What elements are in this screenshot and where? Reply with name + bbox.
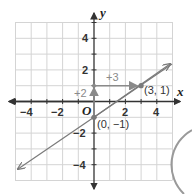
x-axis-label: x <box>176 84 184 99</box>
tick-label-x-2: 2 <box>122 106 128 118</box>
tick-label-y-neg2: −2 <box>73 127 86 139</box>
origin-label: O <box>82 103 92 118</box>
tick-label-x-neg2: −2 <box>51 106 64 118</box>
point-step-corner <box>92 84 96 88</box>
point-second-label: (3, 1) <box>144 84 170 96</box>
tick-label-x-4: 4 <box>153 106 160 118</box>
run-label: +3 <box>106 71 119 83</box>
tick-label-y-2: 2 <box>82 64 88 76</box>
decorative-arc <box>171 130 192 194</box>
point-intercept-label: (0, −1) <box>97 118 129 130</box>
tick-label-y-neg4: −4 <box>73 159 86 171</box>
point-intercept <box>91 115 96 120</box>
point-second <box>139 83 144 88</box>
tick-label-y-4: 4 <box>82 32 89 44</box>
coordinate-plane: y x O −4 −2 2 4 4 2 −2 −4 +2 +3 (0, −1) … <box>0 0 192 194</box>
y-axis-label: y <box>98 5 106 20</box>
tick-label-x-neg4: −4 <box>20 106 33 118</box>
rise-label: +2 <box>74 87 87 99</box>
